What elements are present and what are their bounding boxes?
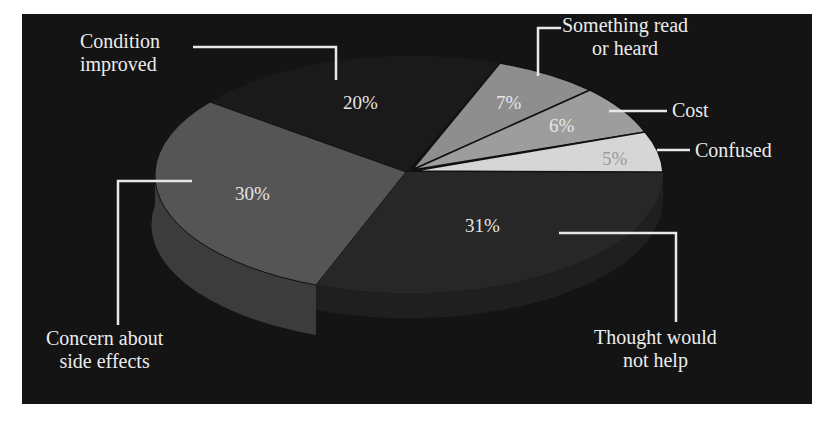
- label-condition-improved: Condition improved: [80, 30, 160, 76]
- label-concern-side-effects: Concern about side effects: [46, 327, 163, 373]
- pct-cost: 6%: [549, 115, 574, 137]
- pct-confused: 5%: [602, 148, 627, 170]
- label-line: Something read: [562, 14, 688, 37]
- label-confused: Confused: [695, 139, 772, 162]
- label-line: not help: [594, 349, 717, 372]
- label-line: Concern about: [46, 327, 163, 350]
- label-something-read: Something read or heard: [562, 14, 688, 60]
- leader-something-read: [538, 28, 561, 76]
- pct-condition-improved: 20%: [343, 92, 378, 114]
- label-line: Thought would: [594, 326, 717, 349]
- label-line: side effects: [46, 350, 163, 373]
- pct-thought-would-not-help: 31%: [465, 215, 500, 237]
- label-line: improved: [80, 53, 160, 76]
- pct-something-read: 7%: [496, 92, 521, 114]
- label-line: or heard: [562, 37, 688, 60]
- label-thought-would-not-help: Thought would not help: [594, 326, 717, 372]
- label-line: Condition: [80, 30, 160, 53]
- label-cost: Cost: [672, 99, 709, 122]
- pct-concern-side-effects: 30%: [235, 183, 270, 205]
